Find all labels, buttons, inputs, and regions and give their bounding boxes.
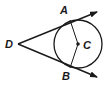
center-point (76, 42, 80, 46)
diagram-canvas (0, 0, 109, 85)
radius-ca (70, 20, 78, 44)
label-d: D (5, 39, 13, 50)
radius-cb (70, 44, 78, 68)
label-a: A (60, 5, 68, 16)
label-b: B (62, 71, 70, 82)
label-c: C (83, 40, 91, 51)
tangent-diagram: A C D B (0, 0, 109, 85)
